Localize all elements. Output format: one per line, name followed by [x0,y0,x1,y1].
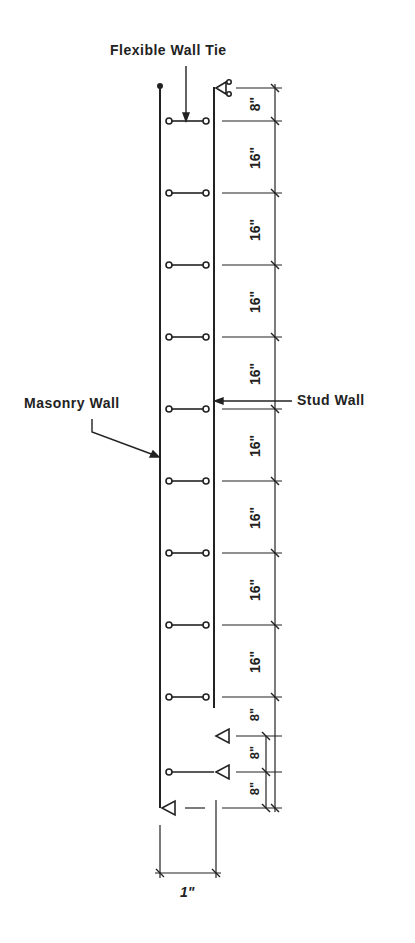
dim-label: 8" [247,746,262,759]
dim-label: 8" [247,97,263,111]
dim-label: 8" [247,782,262,795]
dim-label: 16" [247,291,263,313]
dim-label: 16" [247,651,263,673]
label-masonry-wall: Masonry Wall [24,395,120,411]
dim-label: 16" [247,219,263,241]
dim-label: 16" [247,363,263,385]
label-stud-wall: Stud Wall [297,392,365,408]
dim-label: 16" [247,435,263,457]
dim-label: 16" [247,579,263,601]
dim-label: 16" [247,507,263,529]
dim-label: 8" [247,708,262,721]
label-gap-1-inch: 1" [180,884,194,900]
dim-label: 16" [247,147,263,169]
label-flexible-wall-tie: Flexible Wall Tie [110,42,227,58]
